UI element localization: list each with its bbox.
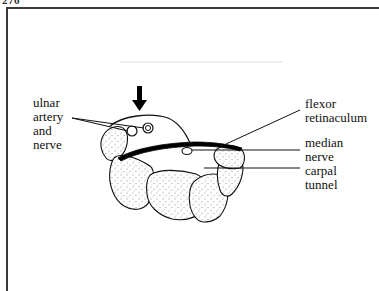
label-ulnar-artery-and-nerve: ulnar artery and nerve xyxy=(33,96,63,152)
ulnar-nerve-inner xyxy=(146,126,151,131)
ulnar-artery xyxy=(127,126,137,136)
label-carpal-tunnel: carpal tunnel xyxy=(305,164,338,192)
label-median-nerve: median nerve xyxy=(305,136,343,164)
arrow-down-icon xyxy=(132,86,147,111)
median-nerve xyxy=(182,148,192,155)
leader-flexor xyxy=(226,110,300,144)
label-flexor-retinaculum: flexor retinaculum xyxy=(305,97,367,125)
